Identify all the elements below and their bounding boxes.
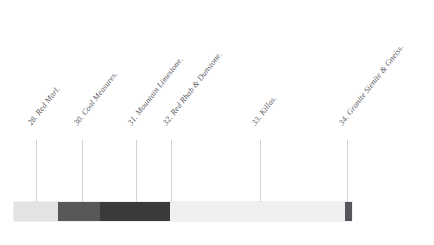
leader-line-coal-measures (82, 140, 83, 202)
legend-label-coal-measures: 30. Coal Measures. (72, 70, 120, 127)
strip-segment-granite-sienite-gneiss (345, 202, 352, 221)
strip-segment-coal-measures (58, 202, 100, 221)
strip-segment-killas (170, 202, 345, 221)
leader-line-mountain-limestone (136, 140, 137, 202)
legend-label-red-rhab-dunstone: 32. Red Rhab & Dunstone. (161, 50, 224, 127)
leader-line-red-rhab-dunstone (171, 140, 172, 202)
strip-segment-mountain-limestone (100, 202, 170, 221)
leader-line-red-marl (36, 140, 37, 202)
leader-line-granite-sienite-gneiss (347, 140, 348, 202)
strip-segment-red-marl (14, 202, 58, 221)
legend-label-red-marl: 28. Red Marl. (26, 85, 62, 127)
legend-label-killas: 33. Killas. (250, 94, 279, 127)
leader-line-killas (260, 140, 261, 202)
geological-legend-figure: 28. Red Marl. 30. Coal Measures. 31. Mou… (0, 0, 434, 245)
legend-label-granite-sienite-gneiss: 34. Granite Sienite & Gneiss. (337, 43, 406, 127)
legend-color-strip (14, 202, 352, 221)
